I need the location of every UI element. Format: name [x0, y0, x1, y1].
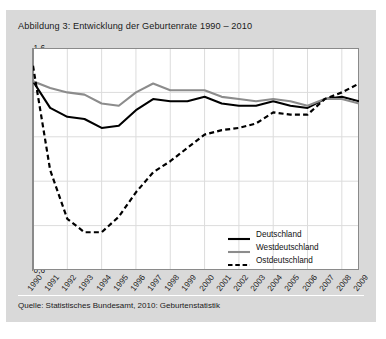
x-tick-label: 1991: [43, 273, 61, 293]
legend-item: Deutschland: [228, 228, 319, 241]
figure-title: Abbildung 3: Entwicklung der Geburtenrat…: [18, 21, 252, 31]
legend-label: Westdeutschland: [256, 243, 319, 252]
x-tick-label: 2002: [232, 273, 250, 293]
x-tick-label: 2004: [266, 273, 284, 293]
legend-label: Deutschland: [256, 230, 302, 239]
x-tick-label: 2006: [300, 273, 318, 293]
x-tick-label: 2007: [317, 273, 335, 293]
x-tick-label: 1993: [77, 273, 95, 293]
x-tick-label: 2008: [335, 273, 353, 293]
source-divider: [18, 295, 364, 296]
x-tick-label: 1995: [112, 273, 130, 293]
x-tick-label: 1999: [180, 273, 198, 293]
x-tick-label: 1992: [60, 273, 78, 293]
x-tick-label: 2003: [249, 273, 267, 293]
x-tick-label: 1998: [163, 273, 181, 293]
legend-item: Westdeutschland: [228, 241, 319, 254]
x-tick-label: 1994: [94, 273, 112, 293]
legend-swatch-icon: [228, 256, 250, 266]
figure-panel: Abbildung 3: Entwicklung der Geburtenrat…: [6, 10, 376, 322]
x-tick-label: 2009: [352, 273, 370, 293]
x-tick-label: 1990: [26, 273, 44, 293]
x-tick-label: 1997: [146, 273, 164, 293]
x-tick-label: 2000: [197, 273, 215, 293]
x-tick-label: 2001: [215, 273, 233, 293]
x-tick-label: 2005: [283, 273, 301, 293]
legend-item: Ostdeutschland: [228, 254, 319, 267]
figure-source: Quelle: Statistisches Bundesamt, 2010: G…: [18, 301, 220, 310]
x-tick-label: 1996: [129, 273, 147, 293]
chart-legend: DeutschlandWestdeutschlandOstdeutschland: [228, 228, 319, 267]
legend-label: Ostdeutschland: [256, 256, 313, 265]
legend-swatch-icon: [228, 230, 250, 240]
legend-swatch-icon: [228, 243, 250, 253]
series-line-westdeutschland: [33, 81, 359, 105]
